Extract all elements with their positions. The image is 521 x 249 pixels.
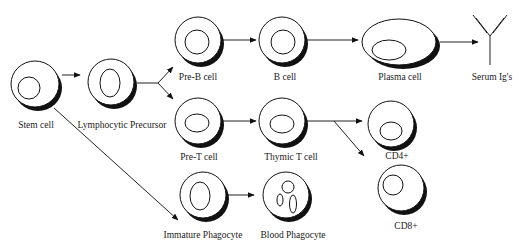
cell-immature-phagocyte: Immature Phagocyte xyxy=(164,172,243,240)
label-lymph: Lymphocytic Precursor xyxy=(78,120,168,130)
cell-pre-t: Pre-T cell xyxy=(175,98,224,162)
cell-lineage-diagram: Stem cell Lymphocytic Precursor Pre-B ce… xyxy=(0,0,521,249)
arrow-lymph-to-preb xyxy=(158,67,173,83)
label-pret: Pre-T cell xyxy=(180,152,218,162)
label-bloodphago: Blood Phagocyte xyxy=(260,230,325,240)
cell-blood-phagocyte: Blood Phagocyte xyxy=(260,172,325,240)
antibody-icon: Serum Ig's xyxy=(472,15,513,82)
label-thymic: Thymic T cell xyxy=(264,152,318,162)
label-cd4: CD4+ xyxy=(385,151,408,161)
label-preb: Pre-B cell xyxy=(179,72,218,82)
arrow-lymph-to-pret xyxy=(158,83,173,99)
cell-lymphocytic-precursor: Lymphocytic Precursor xyxy=(78,59,168,130)
label-immphago: Immature Phagocyte xyxy=(164,230,243,240)
cell-cd8: CD8+ xyxy=(378,165,427,231)
cell-plasma: Plasma cell xyxy=(362,19,440,82)
arrow-thymic-to-cd8 xyxy=(334,121,364,156)
cell-pre-b: Pre-B cell xyxy=(175,17,224,82)
label-stem: Stem cell xyxy=(18,120,54,130)
label-plasma: Plasma cell xyxy=(378,72,422,82)
cell-b: B cell xyxy=(259,17,308,82)
cell-thymic-t: Thymic T cell xyxy=(259,98,318,162)
label-bcell: B cell xyxy=(274,72,297,82)
label-serum: Serum Ig's xyxy=(472,72,513,82)
cell-cd4: CD4+ xyxy=(368,101,417,161)
cell-stem: Stem cell xyxy=(11,61,62,130)
label-cd8: CD8+ xyxy=(394,221,417,231)
